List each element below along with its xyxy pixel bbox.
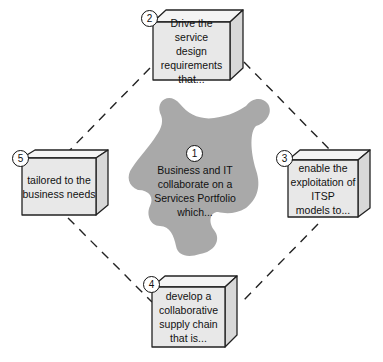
center-line: which...: [140, 205, 250, 219]
step-text-3: enable the exploitation of ITSP models t…: [288, 160, 358, 217]
box-side-face: [225, 276, 237, 347]
center-line: Business and IT: [140, 163, 250, 177]
box-side-face: [96, 150, 108, 215]
step-line: supply chain: [159, 317, 217, 331]
box-top-face: [22, 150, 108, 158]
box-top-face: [288, 150, 370, 160]
connector-2-5: [68, 68, 150, 152]
step-line: tailored to the: [27, 173, 91, 187]
step-line: design: [176, 44, 207, 58]
center-line: collaborate on a: [140, 177, 250, 191]
step-line: enable the: [298, 161, 347, 175]
connector-3-4: [240, 224, 318, 304]
step-line: Drive the service: [153, 16, 230, 44]
step-line: models to...: [296, 203, 350, 217]
center-text: Business and IT collaborate on a Service…: [140, 163, 250, 219]
step-line: requirements: [161, 58, 222, 72]
box-top-face: [152, 276, 237, 287]
step-line: that is...: [170, 331, 207, 345]
step-line: business needs: [23, 187, 96, 201]
step-number-1: 1: [186, 145, 203, 162]
step-text-4: develop a collaborative supply chain tha…: [152, 287, 225, 347]
step-text-2: Drive the service design requirements th…: [153, 22, 230, 80]
step-line: ITSP: [311, 189, 334, 203]
connector-5-4: [68, 218, 152, 302]
box-side-face: [358, 150, 370, 217]
step-line: exploitation of: [291, 175, 356, 189]
center-line: Services Portfolio: [140, 191, 250, 205]
step-text-5: tailored to the business needs: [22, 158, 96, 215]
step-line: collaborative: [159, 303, 218, 317]
step-line: develop a: [166, 289, 212, 303]
step-line: that...: [178, 72, 204, 86]
box-side-face: [230, 10, 243, 80]
